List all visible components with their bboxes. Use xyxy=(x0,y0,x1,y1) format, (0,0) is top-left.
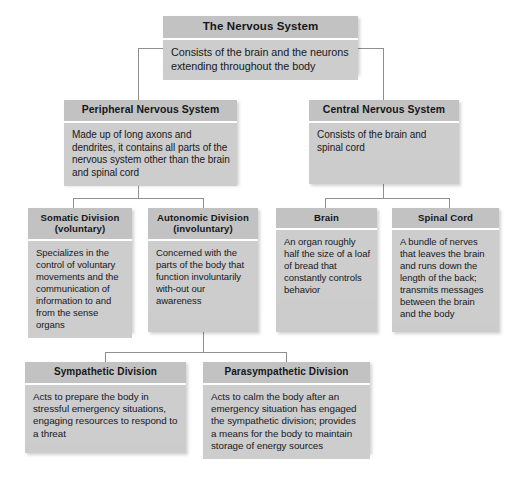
connector-root-to-peripheral xyxy=(138,48,139,100)
connector-peripheral-down xyxy=(138,184,139,198)
node-spinal-cord-title: Spinal Cord xyxy=(392,208,499,230)
node-parasympathetic-division-body: Acts to calm the body after an emergency… xyxy=(203,385,370,459)
node-spinal-cord[interactable]: Spinal Cord A bundle of nerves that leav… xyxy=(392,208,499,332)
node-somatic-division-title-line2: (voluntary) xyxy=(55,223,106,234)
connector-bus-to-parasympathetic xyxy=(286,352,287,362)
connector-peripheral-bus xyxy=(73,198,204,199)
node-peripheral-nervous-system-title: Peripheral Nervous System xyxy=(64,100,237,123)
connector-autonomic-bus xyxy=(105,352,287,353)
connector-bus-to-sympathetic xyxy=(105,352,106,362)
connector-bus-to-somatic xyxy=(73,198,74,208)
node-spinal-cord-body: A bundle of nerves that leaves the brain… xyxy=(392,230,499,326)
connector-root-right-horizontal xyxy=(357,48,384,49)
connector-central-bus xyxy=(325,198,450,199)
node-somatic-division-body: Specializes in the control of voluntary … xyxy=(28,241,132,337)
node-autonomic-division-title-line2: (involuntary) xyxy=(173,223,232,234)
node-nervous-system-body: Consists of the brain and the neurons ex… xyxy=(163,40,358,79)
node-brain[interactable]: Brain An organ roughly half the size of … xyxy=(276,208,377,332)
nervous-system-diagram: The Nervous System Consists of the brain… xyxy=(0,0,522,491)
node-peripheral-nervous-system[interactable]: Peripheral Nervous System Made up of lon… xyxy=(64,100,237,184)
node-sympathetic-division-title: Sympathetic Division xyxy=(25,362,186,385)
connector-root-to-central xyxy=(383,48,384,100)
node-autonomic-division[interactable]: Autonomic Division (involuntary) Concern… xyxy=(148,208,258,332)
connector-bus-to-brain xyxy=(325,198,326,208)
node-parasympathetic-division-title: Parasympathetic Division xyxy=(203,362,370,385)
node-peripheral-nervous-system-body: Made up of long axons and dendrites, it … xyxy=(64,123,237,186)
node-central-nervous-system[interactable]: Central Nervous System Consists of the b… xyxy=(309,100,459,184)
node-sympathetic-division-body: Acts to prepare the body in stressful em… xyxy=(25,385,186,447)
node-somatic-division[interactable]: Somatic Division (voluntary) Specializes… xyxy=(28,208,132,332)
node-somatic-division-title-line1: Somatic Division xyxy=(41,212,120,223)
node-autonomic-division-body: Concerned with the parts of the body tha… xyxy=(148,241,258,313)
node-autonomic-division-title-line1: Autonomic Division xyxy=(157,212,249,223)
connector-autonomic-down xyxy=(203,332,204,352)
node-central-nervous-system-title: Central Nervous System xyxy=(309,100,459,123)
node-central-nervous-system-body: Consists of the brain and spinal cord xyxy=(309,123,459,160)
node-nervous-system[interactable]: The Nervous System Consists of the brain… xyxy=(163,16,358,74)
connector-central-down xyxy=(383,184,384,198)
node-brain-body: An organ roughly half the size of a loaf… xyxy=(276,230,377,302)
connector-bus-to-autonomic xyxy=(203,198,204,208)
connector-bus-to-spinal-cord xyxy=(449,198,450,208)
node-brain-title: Brain xyxy=(276,208,377,230)
node-autonomic-division-title: Autonomic Division (involuntary) xyxy=(148,208,258,241)
node-somatic-division-title: Somatic Division (voluntary) xyxy=(28,208,132,241)
node-parasympathetic-division[interactable]: Parasympathetic Division Acts to calm th… xyxy=(203,362,370,453)
node-sympathetic-division[interactable]: Sympathetic Division Acts to prepare the… xyxy=(25,362,186,453)
node-nervous-system-title: The Nervous System xyxy=(163,16,358,40)
connector-root-left-horizontal xyxy=(138,48,164,49)
